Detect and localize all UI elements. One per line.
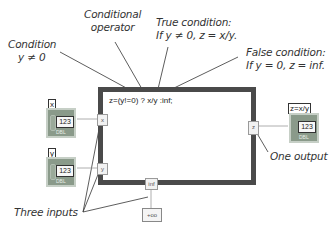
formula-node-diagram: Condition y ≠ 0 Conditional operator Tru… <box>0 0 330 235</box>
formula-node[interactable]: z=(y!=0) ? x/y :inf; <box>98 87 256 185</box>
indicator-z-terminal[interactable]: 123 DBL <box>289 113 319 143</box>
data-type-label: DBL <box>56 129 66 135</box>
conditional-operator-annotation: Conditional operator <box>84 8 141 34</box>
true-condition-annotation: True condition: If y ≠ 0, z = x/y. <box>156 16 237 42</box>
one-output-annotation: One output <box>270 150 327 163</box>
control-x-terminal[interactable]: 123 DBL <box>46 108 76 138</box>
input-tunnel-inf[interactable]: inf <box>145 178 158 190</box>
formula-expression[interactable]: z=(y!=0) ? x/y :inf; <box>109 96 173 105</box>
condition-annotation: Condition y ≠ 0 <box>8 38 56 64</box>
input-tunnel-x[interactable]: x <box>97 114 108 126</box>
data-type-label: DBL <box>56 178 66 184</box>
numeric-display: 123 <box>56 165 74 177</box>
numeric-display: 123 <box>56 116 74 128</box>
output-tunnel-z[interactable]: z <box>248 121 259 135</box>
data-type-label: DBL <box>299 134 309 140</box>
false-condition-annotation: False condition: If y = 0, z = inf. <box>246 46 326 72</box>
three-inputs-annotation: Three inputs <box>14 206 78 219</box>
infinity-constant[interactable]: +oo <box>142 208 162 222</box>
numeric-display: 123 <box>298 121 316 133</box>
input-tunnel-y[interactable]: y <box>97 163 108 175</box>
control-y-terminal[interactable]: 123 DBL <box>46 157 76 187</box>
